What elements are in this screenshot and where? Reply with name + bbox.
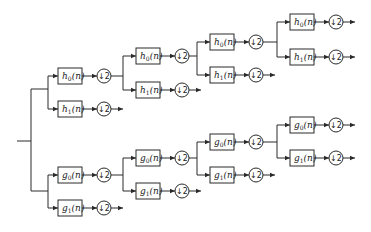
filter-block-h1: h1(n) [58, 101, 85, 117]
downsample-label: ↓2 [98, 171, 110, 180]
filter-block-h1: h1(n) [210, 67, 237, 83]
downsample-by-2: ↓2 [175, 151, 189, 165]
downsample-label: ↓2 [330, 18, 342, 27]
filter-label: h0(n) [62, 71, 85, 82]
downsample-label: ↓2 [176, 86, 188, 95]
filter-label: h0(n) [140, 51, 163, 62]
filter-bank-diagram: h0(n)↓2h1(n)↓2h0(n)↓2h1(n)↓2h0(n)↓2h1(n)… [0, 0, 371, 232]
downsample-by-2: ↓2 [329, 151, 343, 165]
filter-block-g0: g0(n) [290, 117, 317, 133]
filter-label: h0(n) [294, 17, 317, 28]
filter-nodes: h0(n)↓2h1(n)↓2h0(n)↓2h1(n)↓2h0(n)↓2h1(n)… [58, 14, 343, 216]
downsample-by-2: ↓2 [97, 201, 111, 215]
filter-block-h0: h0(n) [136, 48, 163, 64]
diagram-svg: h0(n)↓2h1(n)↓2h0(n)↓2h1(n)↓2h0(n)↓2h1(n)… [0, 0, 371, 232]
filter-label: g0(n) [294, 120, 317, 131]
downsample-label: ↓2 [330, 121, 342, 130]
filter-label: g0(n) [62, 170, 85, 181]
filter-label: g1(n) [294, 153, 317, 164]
filter-block-g0: g0(n) [136, 150, 163, 166]
filter-block-g1: g1(n) [58, 200, 85, 216]
filter-label: g1(n) [140, 186, 163, 197]
downsample-label: ↓2 [250, 38, 262, 47]
downsample-label: ↓2 [250, 71, 262, 80]
filter-block-g0: g0(n) [210, 134, 237, 150]
filter-block-h1: h1(n) [136, 82, 163, 98]
filter-label: g1(n) [62, 203, 85, 214]
filter-block-h1: h1(n) [290, 49, 317, 65]
downsample-by-2: ↓2 [249, 35, 263, 49]
filter-label: g1(n) [214, 170, 237, 181]
filter-label: h1(n) [214, 70, 237, 81]
downsample-label: ↓2 [250, 138, 262, 147]
downsample-label: ↓2 [176, 154, 188, 163]
downsample-label: ↓2 [250, 171, 262, 180]
filter-label: g0(n) [140, 153, 163, 164]
downsample-label: ↓2 [98, 72, 110, 81]
filter-block-g1: g1(n) [210, 167, 237, 183]
filter-label: h0(n) [214, 37, 237, 48]
downsample-label: ↓2 [176, 52, 188, 61]
downsample-by-2: ↓2 [329, 15, 343, 29]
downsample-by-2: ↓2 [249, 68, 263, 82]
downsample-label: ↓2 [330, 154, 342, 163]
filter-label: g0(n) [214, 137, 237, 148]
filter-block-g1: g1(n) [290, 150, 317, 166]
downsample-by-2: ↓2 [329, 118, 343, 132]
downsample-label: ↓2 [98, 204, 110, 213]
downsample-by-2: ↓2 [329, 50, 343, 64]
filter-block-h0: h0(n) [58, 68, 85, 84]
downsample-by-2: ↓2 [175, 184, 189, 198]
downsample-by-2: ↓2 [249, 135, 263, 149]
downsample-by-2: ↓2 [249, 168, 263, 182]
downsample-label: ↓2 [98, 105, 110, 114]
downsample-by-2: ↓2 [97, 69, 111, 83]
downsample-by-2: ↓2 [97, 102, 111, 116]
filter-block-g0: g0(n) [58, 167, 85, 183]
filter-label: h1(n) [294, 52, 317, 63]
filter-label: h1(n) [140, 85, 163, 96]
filter-block-h0: h0(n) [290, 14, 317, 30]
downsample-label: ↓2 [330, 53, 342, 62]
downsample-by-2: ↓2 [175, 49, 189, 63]
downsample-by-2: ↓2 [97, 168, 111, 182]
downsample-by-2: ↓2 [175, 83, 189, 97]
filter-block-h0: h0(n) [210, 34, 237, 50]
downsample-label: ↓2 [176, 187, 188, 196]
filter-label: h1(n) [62, 104, 85, 115]
filter-block-g1: g1(n) [136, 183, 163, 199]
